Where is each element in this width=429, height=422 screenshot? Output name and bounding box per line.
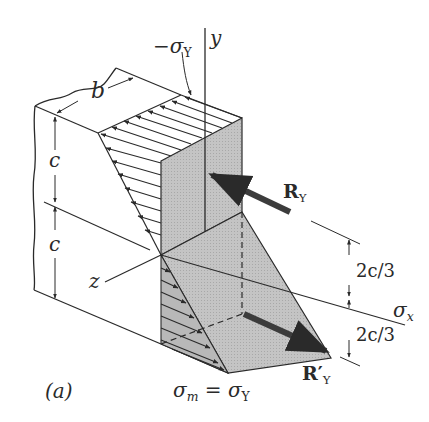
wavy-cut-edge-left (33, 106, 35, 290)
label-c-upper: c (49, 150, 60, 170)
label-RprimeY: R′Y (302, 364, 331, 387)
label-sigma-m: σm = σY (173, 380, 250, 404)
label-neg-sigma-y: −σY (153, 36, 192, 60)
label-2c3-lower: 2c/3 (356, 326, 395, 344)
RY-subscript: Y (299, 191, 307, 205)
panel-label: (a) (45, 381, 73, 401)
label-RY: RY (283, 182, 307, 205)
RY-text: R (283, 180, 299, 202)
z-axis (105, 255, 161, 282)
label-2c3-upper: 2c/3 (356, 262, 395, 280)
sigma-m-lhs: σ (173, 378, 187, 402)
sigma-x-subscript: x (407, 309, 414, 324)
label-b: b (91, 80, 105, 102)
sigma-x-text: σ (393, 298, 407, 322)
RprimeY-subscript: Y (323, 373, 331, 387)
neg-sigma-y-subscript: Y (183, 45, 191, 60)
label-y-axis: y (210, 28, 221, 48)
sigma-m-eq: = σ (198, 378, 241, 402)
neg-sigma-y-text: −σ (153, 34, 183, 58)
sigma-m-rhs-subscript: Y (242, 389, 250, 404)
RprimeY-text: R′ (302, 362, 323, 384)
sigma-m-subscript: m (187, 389, 199, 404)
stress-distribution-diagram (0, 0, 429, 422)
label-c-lower: c (49, 234, 60, 254)
label-sigma-x: σx (393, 300, 414, 324)
label-z-axis: z (89, 271, 100, 291)
